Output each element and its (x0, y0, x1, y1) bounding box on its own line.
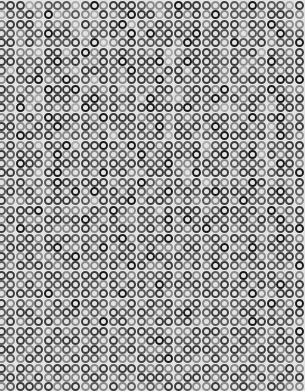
ring-icon (90, 299, 99, 308)
ring-icon (192, 289, 201, 298)
ring-icon (99, 317, 108, 326)
ring-icon (155, 308, 164, 317)
ring-icon (99, 327, 108, 336)
ring-icon (118, 299, 127, 308)
ring-icon (118, 336, 127, 345)
ring-icon (6, 122, 15, 131)
ring-icon (6, 280, 15, 289)
ring-icon (137, 280, 146, 289)
ring-icon (25, 113, 34, 122)
ring-icon (137, 57, 146, 66)
ring-icon (34, 243, 43, 252)
ring-icon (220, 289, 229, 298)
ring-icon (174, 159, 183, 168)
ring-icon (164, 215, 173, 224)
ring-icon (211, 327, 220, 336)
ring-icon (230, 206, 239, 215)
ring-icon (25, 299, 34, 308)
ring-icon (44, 364, 53, 373)
ring-icon (267, 168, 276, 177)
ring-icon (257, 308, 266, 317)
ring-icon (71, 29, 80, 38)
ring-icon (267, 317, 276, 326)
ring-icon (192, 196, 201, 205)
ring-icon (146, 75, 155, 84)
ring-icon (25, 187, 34, 196)
ring-icon (248, 159, 257, 168)
ring-icon (44, 94, 53, 103)
ring-icon (257, 85, 266, 94)
ring-icon (285, 1, 294, 10)
ring-icon (44, 1, 53, 10)
ring-icon (146, 168, 155, 177)
ring-icon (276, 168, 285, 177)
ring-icon (202, 224, 211, 233)
ring-icon (90, 150, 99, 159)
ring-icon (71, 364, 80, 373)
ring-icon (137, 243, 146, 252)
ring-icon (109, 206, 118, 215)
ring-icon (248, 196, 257, 205)
ring-icon (276, 113, 285, 122)
ring-icon (155, 317, 164, 326)
ring-icon (146, 354, 155, 363)
ring-icon (90, 159, 99, 168)
ring-icon (16, 66, 25, 75)
ring-icon (6, 354, 15, 363)
ring-icon (44, 382, 53, 391)
ring-icon (267, 382, 276, 391)
ring-icon (99, 271, 108, 280)
ring-icon (25, 131, 34, 140)
ring-icon (109, 196, 118, 205)
ring-icon (192, 57, 201, 66)
ring-icon (53, 206, 62, 215)
ring-icon (183, 196, 192, 205)
ring-icon (53, 252, 62, 261)
ring-icon (267, 354, 276, 363)
ring-icon (81, 94, 90, 103)
ring-icon (118, 187, 127, 196)
ring-icon (71, 113, 80, 122)
ring-icon (257, 57, 266, 66)
ring-icon (81, 271, 90, 280)
ring-icon (211, 280, 220, 289)
ring-icon (25, 159, 34, 168)
ring-icon (276, 75, 285, 84)
ring-icon (118, 354, 127, 363)
ring-icon (267, 364, 276, 373)
ring-icon (295, 327, 304, 336)
ring-icon (183, 187, 192, 196)
ring-icon (285, 20, 294, 29)
ring-icon (81, 103, 90, 112)
ring-icon (174, 10, 183, 19)
ring-icon (155, 159, 164, 168)
ring-icon (137, 113, 146, 122)
ring-icon (0, 252, 6, 261)
ring-icon (109, 113, 118, 122)
ring-icon (174, 317, 183, 326)
ring-icon (220, 261, 229, 270)
ring-icon (295, 345, 304, 354)
ring-icon (248, 308, 257, 317)
ring-icon (295, 271, 304, 280)
ring-icon (0, 243, 6, 252)
ring-icon (62, 289, 71, 298)
ring-icon (34, 122, 43, 131)
ring-icon (137, 131, 146, 140)
ring-icon (192, 243, 201, 252)
ring-icon (248, 57, 257, 66)
ring-icon (109, 103, 118, 112)
ring-icon (174, 57, 183, 66)
ring-icon (44, 206, 53, 215)
ring-icon (16, 178, 25, 187)
ring-icon (44, 187, 53, 196)
ring-icon (62, 94, 71, 103)
ring-icon (62, 122, 71, 131)
ring-icon (211, 299, 220, 308)
ring-icon (220, 345, 229, 354)
ring-icon (230, 103, 239, 112)
ring-icon (146, 1, 155, 10)
ring-icon (164, 57, 173, 66)
ring-icon (81, 131, 90, 140)
ring-icon (276, 20, 285, 29)
